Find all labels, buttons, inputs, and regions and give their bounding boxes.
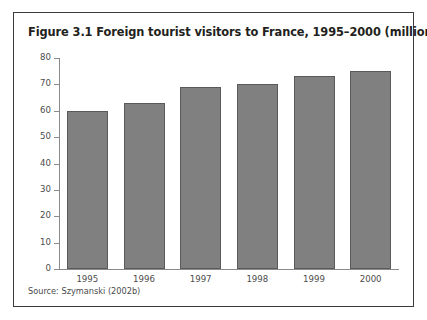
- y-axis-line: [59, 58, 60, 269]
- x-tick-label: 1995: [59, 274, 116, 284]
- x-tick-label: 1998: [229, 274, 286, 284]
- y-tick-mark: [54, 243, 59, 244]
- bar: [180, 87, 221, 269]
- y-tick-label: 10: [40, 237, 51, 247]
- y-tick-label: 80: [40, 52, 51, 62]
- y-tick-label: 0: [46, 263, 51, 273]
- figure-frame: Figure 3.1 Foreign tourist visitors to F…: [13, 12, 414, 307]
- y-tick-mark: [54, 58, 59, 59]
- y-tick-mark: [54, 164, 59, 165]
- x-axis-line: [59, 269, 399, 270]
- y-tick-label: 50: [40, 131, 51, 141]
- y-tick-label: 70: [40, 78, 51, 88]
- figure-title: Figure 3.1 Foreign tourist visitors to F…: [28, 25, 408, 39]
- y-tick-label: 20: [40, 210, 51, 220]
- y-tick-mark: [54, 111, 59, 112]
- y-tick-mark: [54, 137, 59, 138]
- bar: [67, 111, 108, 269]
- y-tick-mark: [54, 216, 59, 217]
- x-tick-label: 1996: [116, 274, 173, 284]
- source-note: Source: Szymanski (2002b): [28, 286, 140, 296]
- bar-chart-plot-area: 01020304050607080 1995199619971998199920…: [59, 58, 399, 269]
- bar: [294, 76, 335, 269]
- bar: [237, 84, 278, 269]
- y-tick-mark: [54, 190, 59, 191]
- x-tick-label: 1999: [286, 274, 343, 284]
- y-tick-label: 30: [40, 184, 51, 194]
- x-tick-label: 2000: [342, 274, 399, 284]
- bar: [350, 71, 391, 269]
- y-tick-label: 40: [40, 158, 51, 168]
- x-tick-label: 1997: [172, 274, 229, 284]
- y-tick-label: 60: [40, 105, 51, 115]
- y-tick-mark: [54, 84, 59, 85]
- bar: [124, 103, 165, 269]
- y-tick-mark: [54, 269, 59, 270]
